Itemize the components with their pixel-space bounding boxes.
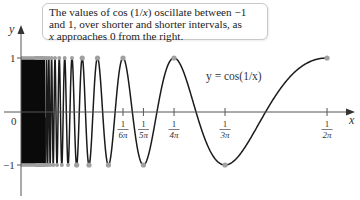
x-tick-denominator: 4π [170, 130, 180, 140]
x-tick-denominator: 6π [119, 130, 129, 140]
maximum-point [34, 56, 38, 60]
minimum-point [35, 163, 39, 167]
curve-label: y = cos(1/x) [206, 70, 262, 83]
x-tick-denominator: 2π [323, 130, 333, 140]
minimum-point [106, 162, 111, 167]
x-tick-5pi: 15π [138, 108, 149, 140]
x-tick-numerator: 1 [172, 119, 177, 129]
maximum-point [95, 55, 100, 60]
x-ticks: 16π15π14π13π12π [118, 108, 333, 140]
x-tick-3pi: 13π [220, 108, 231, 140]
callout-line-3: x approaches 0 from the right. [49, 30, 261, 42]
minimum-point [60, 163, 64, 167]
x-tick-6pi: 16π [118, 108, 129, 140]
x-tick-2pi: 12π [322, 108, 333, 140]
minimum-point [86, 162, 91, 167]
x-tick-numerator: 1 [223, 119, 228, 129]
y-tick-label-neg1: −1 [3, 159, 15, 171]
y-axis-arrow-icon [18, 25, 25, 34]
y-tick-label-1: 1 [10, 52, 16, 64]
minimum-point [141, 162, 146, 167]
callout-line-2: and 1, over shorter and shorter interval… [49, 18, 261, 30]
maximum-point [171, 55, 176, 60]
callout-line-1: The values of cos (1/x) oscillate betwee… [49, 6, 261, 18]
y-axis-label: y [8, 22, 15, 36]
minimum-point [222, 162, 227, 167]
x-axis-label: x [348, 113, 355, 127]
maximum-point [57, 56, 61, 60]
x-tick-4pi: 14π [169, 108, 180, 140]
x-tick-denominator: 3π [220, 130, 231, 140]
x-tick-numerator: 1 [325, 119, 330, 129]
maximum-point [120, 55, 125, 60]
minimum-point [66, 163, 70, 167]
maximum-point [70, 56, 74, 60]
origin-label: 0 [11, 115, 17, 127]
x-tick-numerator: 1 [121, 119, 126, 129]
maximum-point [324, 55, 329, 60]
x-tick-numerator: 1 [141, 119, 146, 129]
minimum-point [74, 162, 79, 167]
maximum-point [63, 56, 67, 60]
callout-annotation: The values of cos (1/x) oscillate betwee… [42, 3, 268, 40]
minimum-point [55, 163, 59, 167]
x-tick-denominator: 5π [139, 130, 149, 140]
maximum-point [80, 55, 85, 60]
